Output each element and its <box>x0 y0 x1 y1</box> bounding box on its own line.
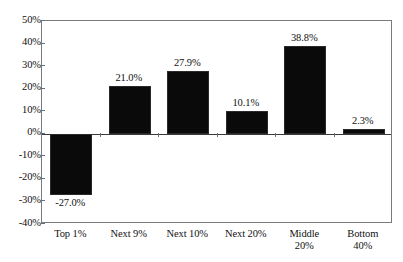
bar-value-label: 21.0% <box>96 72 163 83</box>
x-axis-category-label-line: 40% <box>328 240 399 252</box>
y-axis-tick-label: 0% <box>4 127 41 138</box>
x-axis-tick-mark <box>158 133 159 137</box>
y-axis-tick-label: 10% <box>4 105 41 116</box>
x-axis-category-label: Bottom40% <box>328 228 399 252</box>
y-axis-tick-mark <box>41 133 45 134</box>
bar-value-label: 2.3% <box>330 115 397 126</box>
bar <box>284 46 326 134</box>
x-axis-tick-mark <box>275 133 276 137</box>
x-axis-tick-mark <box>334 133 335 137</box>
y-axis-tick-mark <box>41 65 45 66</box>
x-axis-category-labels: Top 1%Next 9%Next 10%Next 20%Middle20%Bo… <box>41 228 392 262</box>
y-axis-tick-label: 20% <box>4 82 41 93</box>
y-axis-tick-label: 50% <box>4 15 41 26</box>
bar <box>343 129 385 134</box>
y-axis-tick-mark <box>41 223 45 224</box>
bar-value-label: -27.0% <box>37 197 104 208</box>
bar-value-label: 27.9% <box>154 57 221 68</box>
y-axis-tick-mark <box>41 110 45 111</box>
bar-chart: 50%40%30%20%10%0%-10%-20%-30%-40% Top 1%… <box>0 0 403 262</box>
y-axis-tick-mark <box>41 88 45 89</box>
bar <box>226 111 268 134</box>
y-axis-tick-mark <box>41 20 45 21</box>
y-axis-tick-label: -40% <box>4 218 41 229</box>
y-axis-tick-label: -10% <box>4 150 41 161</box>
x-axis-tick-mark <box>100 133 101 137</box>
y-axis: 50%40%30%20%10%0%-10%-20%-30%-40% <box>0 0 41 262</box>
y-axis-tick-label: -20% <box>4 172 41 183</box>
y-axis-tick-mark <box>41 43 45 44</box>
y-axis-tick-label: -30% <box>4 195 41 206</box>
y-axis-tick-label: 30% <box>4 60 41 71</box>
x-axis-tick-mark <box>217 133 218 137</box>
bar <box>50 134 92 195</box>
bar-value-label: 10.1% <box>213 97 280 108</box>
y-axis-tick-label: 40% <box>4 37 41 48</box>
bar-value-label: 38.8% <box>271 32 338 43</box>
y-axis-tick-mark <box>41 155 45 156</box>
x-axis-category-label-line: Bottom <box>328 228 399 240</box>
y-axis-tick-mark <box>41 178 45 179</box>
bar <box>109 86 151 133</box>
bar <box>167 71 209 134</box>
